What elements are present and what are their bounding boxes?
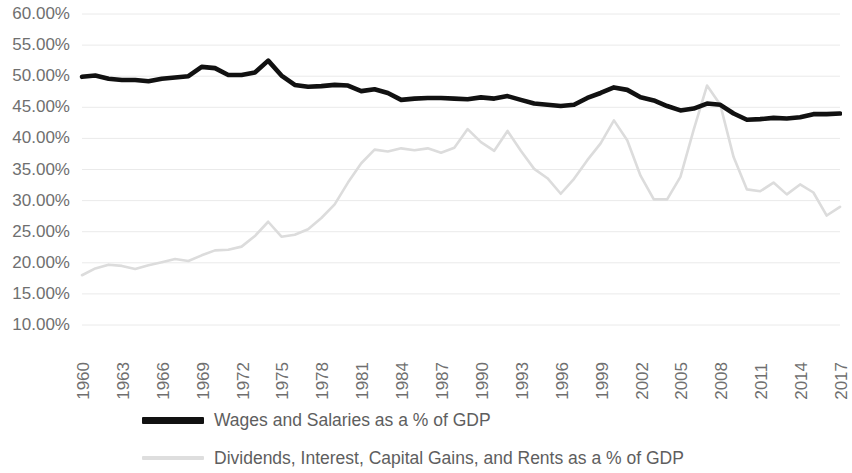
x-axis-tick-label: 1990 — [473, 362, 493, 400]
x-axis-tick-label: 1966 — [154, 362, 174, 400]
x-axis-tick-label: 1963 — [114, 362, 134, 400]
x-axis-tick-label: 2008 — [712, 362, 732, 400]
x-axis-tick-label: 1972 — [234, 362, 254, 400]
x-axis-tick-label: 2014 — [792, 362, 812, 400]
x-axis-tick-label: 1984 — [393, 362, 413, 400]
legend-swatch-wages — [142, 417, 204, 424]
x-axis-tick-label: 1993 — [513, 362, 533, 400]
chart-legend: Wages and Salaries as a % of GDP Dividen… — [0, 398, 842, 473]
legend-swatch-capital — [142, 456, 204, 460]
x-axis-tick-label: 1975 — [273, 362, 293, 400]
plot-area: 60.00%55.00%50.00%45.00%40.00%35.00%30.0… — [0, 0, 842, 400]
x-axis: 1960196319661969197219751978198119841987… — [82, 330, 840, 400]
legend-label-wages: Wages and Salaries as a % of GDP — [214, 410, 491, 431]
x-axis-tick-label: 2005 — [672, 362, 692, 400]
x-axis-tick-label: 1978 — [313, 362, 333, 400]
x-axis-tick-label: 1987 — [433, 362, 453, 400]
series-line — [82, 86, 840, 276]
x-axis-tick-label: 1969 — [194, 362, 214, 400]
x-axis-tick-label: 2002 — [633, 362, 653, 400]
x-axis-tick-label: 1981 — [353, 362, 373, 400]
x-axis-tick-label: 2011 — [752, 363, 772, 400]
x-axis-tick-label: 1999 — [593, 362, 613, 400]
x-axis-tick-label: 1996 — [553, 362, 573, 400]
series-line — [82, 61, 840, 120]
legend-item-capital: Dividends, Interest, Capital Gains, and … — [142, 444, 684, 472]
legend-item-wages: Wages and Salaries as a % of GDP — [142, 406, 491, 434]
x-axis-tick-label: 1960 — [74, 362, 94, 400]
x-axis-tick-label: 2017 — [832, 362, 852, 400]
series-lines — [82, 61, 840, 276]
legend-label-capital: Dividends, Interest, Capital Gains, and … — [214, 448, 684, 469]
gridlines — [82, 14, 840, 325]
